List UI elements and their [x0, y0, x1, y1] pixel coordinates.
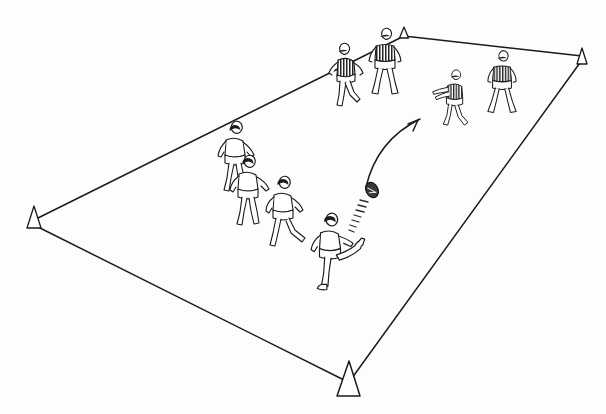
- drill-diagram: Kick and catch drill within coned grid s…: [0, 0, 606, 414]
- background: [0, 0, 606, 414]
- diagram-canvas: [0, 0, 606, 414]
